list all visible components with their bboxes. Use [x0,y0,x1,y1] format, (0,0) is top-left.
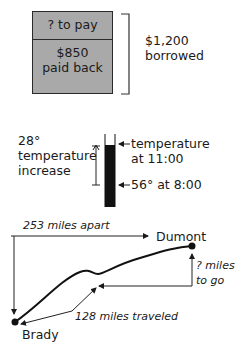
total-label: borrowed [145,48,204,63]
start-city-label: Brady [22,327,59,342]
total-distance-arrow [11,236,148,314]
top-reading-label-1: temperature [131,136,210,151]
remaining-label-2: to go [196,274,224,287]
total-distance-label: 253 miles apart [23,219,110,232]
brady-dot [12,319,19,326]
traveled-label: 128 miles traveled [75,310,178,323]
increase-amount: 28° [18,133,40,148]
bottom-reading-label: 56° at 8:00 [131,177,202,192]
end-city-label: Dumont [156,229,206,244]
increase-label-2: increase [18,163,71,178]
remaining-label-1: ? miles [196,259,235,272]
top-reading-label-2: at 11:00 [131,151,184,166]
increase-label-1: temperature [18,148,97,163]
total-amount: $1,200 [145,33,189,48]
remaining-distance-arrow [99,254,192,286]
thermometer [105,134,115,207]
total-bracket [121,14,129,94]
